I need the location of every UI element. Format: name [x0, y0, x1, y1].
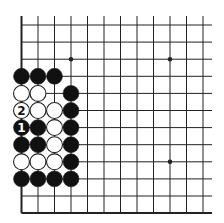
black-stone [47, 68, 63, 84]
white-stone [30, 154, 46, 170]
star-point-icon [168, 57, 173, 62]
white-stone [47, 103, 63, 119]
black-stone [63, 137, 79, 153]
black-stone [63, 85, 79, 101]
black-stone-icon [47, 171, 63, 187]
white-stone [47, 154, 63, 170]
black-stone-icon [63, 171, 79, 187]
white-stone-icon [30, 154, 46, 170]
black-stone [63, 103, 79, 119]
black-stone [14, 171, 30, 187]
black-stone [14, 137, 30, 153]
white-stone [30, 85, 46, 101]
black-stone-icon [63, 103, 79, 119]
black-stone-icon [30, 137, 46, 153]
black-stone-icon [14, 171, 30, 187]
star-point-icon [69, 57, 74, 62]
black-stone: 1 [14, 120, 30, 136]
black-stone [47, 171, 63, 187]
go-board: 21 [0, 0, 224, 223]
black-stone [30, 120, 46, 136]
white-stone-icon [30, 85, 46, 101]
black-stone [30, 137, 46, 153]
white-stone-icon [47, 103, 63, 119]
black-stone [63, 154, 79, 170]
move-number-label: 2 [17, 104, 25, 118]
white-stone-icon [14, 85, 30, 101]
move-number-label: 1 [17, 121, 25, 135]
white-stone [14, 154, 30, 170]
white-stone [14, 85, 30, 101]
white-stone-icon [47, 137, 63, 153]
black-stone-icon [63, 137, 79, 153]
black-stone-icon [63, 85, 79, 101]
black-stone-icon [30, 171, 46, 187]
black-stone-icon [14, 137, 30, 153]
black-stone [30, 171, 46, 187]
black-stone-icon [30, 120, 46, 136]
stones: 21 [14, 68, 79, 186]
white-stone-icon [47, 154, 63, 170]
black-stone [63, 171, 79, 187]
white-stone-icon [30, 103, 46, 119]
star-point-icon [168, 160, 173, 165]
white-stone-icon [14, 154, 30, 170]
white-stone-icon [47, 120, 63, 136]
black-stone-icon [47, 68, 63, 84]
black-stone [14, 68, 30, 84]
white-stone [30, 103, 46, 119]
white-stone: 2 [14, 103, 30, 119]
white-stone [47, 120, 63, 136]
black-stone-icon [14, 68, 30, 84]
black-stone [63, 120, 79, 136]
go-board-svg: 21 [0, 0, 224, 223]
white-stone [47, 137, 63, 153]
black-stone [30, 68, 46, 84]
black-stone-icon [63, 120, 79, 136]
black-stone-icon [30, 68, 46, 84]
black-stone-icon [63, 154, 79, 170]
